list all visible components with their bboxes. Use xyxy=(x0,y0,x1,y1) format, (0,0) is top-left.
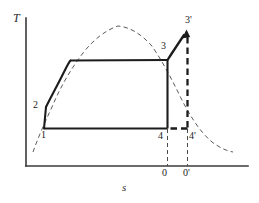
x-axis-label: s xyxy=(122,182,126,193)
ts-diagram-canvas xyxy=(0,0,259,203)
point-label-3: 3 xyxy=(161,41,166,51)
process-2-to-saturation xyxy=(46,61,71,108)
process-1-2 xyxy=(44,107,46,129)
point-label-4-prime: 4' xyxy=(189,131,196,141)
point-label-4: 4 xyxy=(158,131,163,141)
saturation-dome-curve xyxy=(33,26,233,152)
process-top-isotherm-to-3 xyxy=(70,60,168,61)
point-label-0-prime: 0' xyxy=(183,168,190,178)
ts-diagram-figure: T s 1 2 3 3' 4 4' 0 0' xyxy=(0,0,259,203)
point-label-0: 0 xyxy=(162,168,167,178)
arrowhead-3prime-icon xyxy=(182,30,190,39)
point-label-2: 2 xyxy=(33,100,38,110)
point-label-1: 1 xyxy=(41,130,46,140)
point-label-3-prime: 3' xyxy=(185,15,192,25)
process-3-to-3prime xyxy=(168,35,185,60)
y-axis-label: T xyxy=(13,12,20,24)
